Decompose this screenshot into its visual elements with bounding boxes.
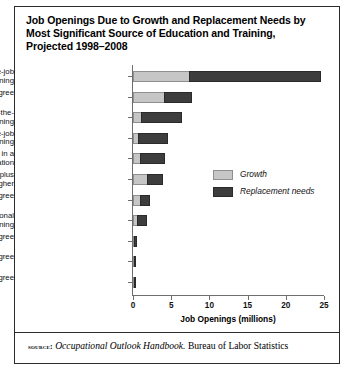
bar-segment-replacement-needs [137,215,147,226]
category-label: Long-term on-the-job training [0,130,14,147]
bar-segment-replacement-needs [147,174,162,185]
category-label: Work experience in a related occupation [0,150,14,167]
legend-swatch-growth [213,170,233,180]
x-axis-tick-label: 25 [309,301,339,310]
source-divider [15,332,339,333]
y-axis-tick [128,158,132,159]
bar-segment-replacement-needs [141,112,182,123]
y-axis-tick [128,179,132,180]
y-axis-tick [128,138,132,139]
category-label: Moderate-term on-the- job training [0,109,14,126]
bar-segment-replacement-needs [138,133,168,144]
category-label: Bachelor's degree [0,89,14,98]
category-label: Master's degree [0,274,14,283]
legend-swatch-replacement-needs [213,187,233,197]
source-agency: Bureau of Labor Statistics [185,340,288,351]
x-axis-title: Job Openings (millions) [132,314,324,324]
chart-legend: Growth Replacement needs [213,169,333,203]
bar-segment-growth [133,174,148,185]
x-axis-tick-label: 5 [156,301,186,310]
category-label: Doctoral degree [0,253,14,262]
legend-label-growth: Growth [240,169,267,179]
bar-segment-growth [133,71,190,82]
source-publication: Occupational Outlook Handbook. [55,340,185,351]
bar-segment-replacement-needs [134,256,136,267]
category-label: Associate degree [0,192,14,201]
x-axis-tick-label: 15 [233,301,263,310]
x-axis-tick [133,296,134,300]
y-axis-tick [128,261,132,262]
bar-segment-replacement-needs [134,277,137,288]
category-label: Short-term on-the-job training [0,68,14,85]
y-axis-tick [128,220,132,221]
y-axis-tick [128,97,132,98]
bar-segment-growth [133,92,165,103]
legend-item-replacement-needs: Replacement needs [213,186,333,200]
x-axis-tick-label: 20 [271,301,301,310]
x-axis-tick [209,296,210,300]
figure-panel: Job Openings Due to Growth and Replaceme… [14,6,340,364]
bar-segment-replacement-needs [140,153,165,164]
x-axis-tick [286,296,287,300]
bar-segment-replacement-needs [140,195,150,206]
legend-item-growth: Growth [213,169,333,183]
y-axis-tick [128,117,132,118]
y-axis-tick [128,200,132,201]
source-label: source: [28,342,53,351]
y-axis-tick [128,282,132,283]
bar-segment-replacement-needs [189,71,320,82]
x-axis-line [132,295,324,296]
y-axis-tick [128,241,132,242]
category-label: Postsecondary vocational training [0,212,14,229]
bar-segment-replacement-needs [164,92,192,103]
x-axis-tick [171,296,172,300]
y-axis-tick [128,76,132,77]
x-axis-tick-label: 0 [118,301,148,310]
x-axis-tick [248,296,249,300]
category-label: Work experience plus bachelor's degree o… [0,171,14,188]
bar-segment-replacement-needs [134,236,137,247]
source-note: source: Occupational Outlook Handbook. B… [28,340,328,351]
category-label: First professional degree [0,233,14,242]
x-axis-tick [324,296,325,300]
x-axis-tick-label: 10 [194,301,224,310]
legend-label-replacement-needs: Replacement needs [240,186,315,196]
